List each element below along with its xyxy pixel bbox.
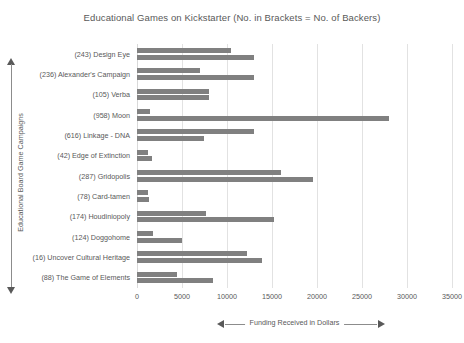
bar-group — [137, 207, 452, 227]
bar-group — [137, 44, 452, 64]
bar-group — [137, 166, 452, 186]
bar — [137, 231, 153, 236]
bar-group — [137, 227, 452, 247]
bar — [137, 258, 262, 263]
bar — [137, 95, 209, 100]
x-axis-tick-label: 20000 — [307, 292, 327, 301]
bar — [137, 251, 247, 256]
bar-group — [137, 146, 452, 166]
x-axis-tick-label: 10000 — [217, 292, 237, 301]
bar-group — [137, 125, 452, 145]
x-axis-tick-label: 35000 — [442, 292, 462, 301]
bar — [137, 48, 231, 53]
x-axis-tick-label: 5000 — [174, 292, 190, 301]
bar — [137, 89, 209, 94]
y-axis-label: (174) Houdiniopoly — [16, 212, 130, 221]
bar-group — [137, 186, 452, 206]
bar-group — [137, 85, 452, 105]
arrow-down-icon — [7, 287, 15, 294]
x-axis-tick-label: 0 — [135, 292, 139, 301]
bar — [137, 217, 274, 222]
y-axis-label: (42) Edge of Extinction — [16, 151, 130, 160]
y-axis-label: (88) The Game of Elements — [16, 273, 130, 282]
arrow-left-icon — [217, 320, 224, 328]
bar — [137, 68, 200, 73]
y-axis-label: (16) Uncover Cultural Heritage — [16, 253, 130, 262]
bar — [137, 170, 281, 175]
bar — [137, 197, 149, 202]
x-axis-title-group: Funding Received in Dollars — [137, 316, 452, 332]
bar — [137, 177, 313, 182]
bar — [137, 278, 213, 283]
x-axis-tick-label: 25000 — [352, 292, 372, 301]
y-axis-label: (236) Alexander's Campaign — [16, 70, 130, 79]
bar — [137, 55, 254, 60]
y-axis-label: (243) Design Eye — [16, 50, 130, 59]
bar — [137, 211, 206, 216]
y-axis-arrow-line — [11, 64, 12, 288]
y-axis-label: (958) Moon — [16, 111, 130, 120]
plot-area — [137, 44, 452, 288]
bar — [137, 75, 254, 80]
bar — [137, 136, 204, 141]
bar — [137, 150, 148, 155]
y-axis-label: (124) Doggohome — [16, 233, 130, 242]
bar — [137, 109, 150, 114]
x-axis-tick-labels: 05000100001500020000250003000035000 — [137, 292, 464, 306]
y-axis-category-labels: (243) Design Eye(236) Alexander's Campai… — [20, 44, 134, 288]
chart-container: Educational Games on Kickstarter (No. in… — [0, 0, 464, 343]
chart-title: Educational Games on Kickstarter (No. in… — [0, 12, 464, 23]
bar — [137, 156, 152, 161]
bar — [137, 238, 182, 243]
x-axis-tick-label: 15000 — [262, 292, 282, 301]
bar-group — [137, 268, 452, 288]
bar — [137, 129, 254, 134]
y-axis-label: (105) Verba — [16, 90, 130, 99]
bar-group — [137, 64, 452, 84]
bar — [137, 190, 148, 195]
y-axis-label: (616) Linkage - DNA — [16, 131, 130, 140]
bar-group — [137, 105, 452, 125]
bar — [137, 116, 389, 121]
gridline — [452, 44, 453, 288]
y-axis-label: (287) Gridopolis — [16, 172, 130, 181]
y-axis-label: (78) Card-tamen — [16, 192, 130, 201]
x-axis-title: Funding Received in Dollars — [245, 318, 345, 327]
arrow-right-icon — [378, 320, 385, 328]
x-axis-tick-label: 30000 — [397, 292, 417, 301]
bar — [137, 272, 177, 277]
bar-group — [137, 247, 452, 267]
